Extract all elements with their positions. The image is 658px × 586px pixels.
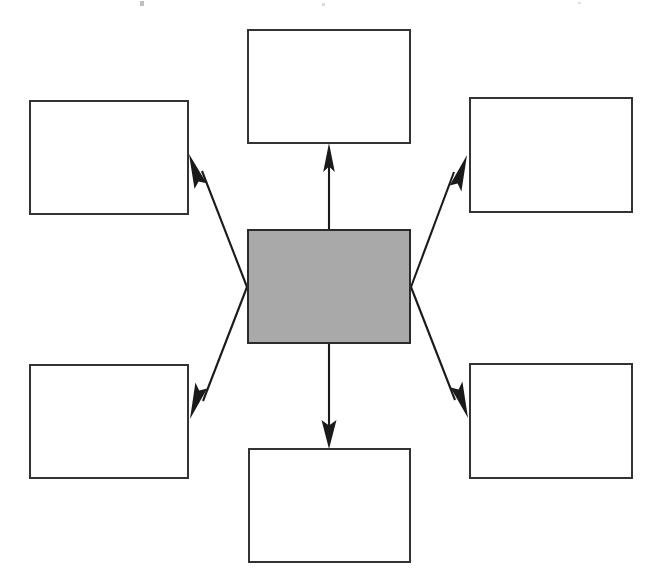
connector-center-to-bottom-left: [190, 287, 247, 419]
node-bottom-right[interactable]: [469, 363, 633, 479]
node-bottom-left[interactable]: [29, 364, 189, 479]
node-top-right[interactable]: [469, 97, 633, 213]
node-center[interactable]: [247, 229, 411, 344]
node-top-left[interactable]: [29, 100, 189, 215]
node-top[interactable]: [247, 29, 411, 144]
connector-center-to-top: [323, 143, 335, 229]
diagram-canvas: [0, 0, 658, 586]
connector-center-to-bottom-right: [411, 287, 468, 418]
connector-center-to-top-left: [189, 154, 247, 287]
connector-center-to-top-right: [411, 155, 467, 287]
connector-center-to-bottom: [322, 344, 337, 449]
node-bottom[interactable]: [248, 448, 411, 563]
